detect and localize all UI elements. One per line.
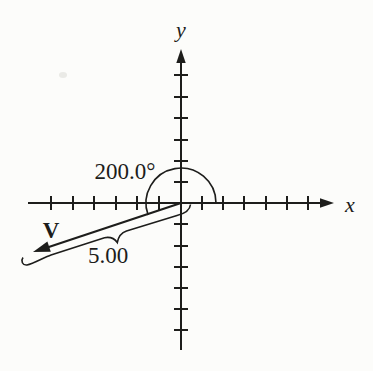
y-axis-label: y [174, 17, 186, 42]
vector-diagram-figure: y x 200.0° V 5.00 [0, 0, 373, 371]
diagram-canvas: y x 200.0° V 5.00 [0, 0, 373, 371]
x-axis-arrowhead-icon [320, 198, 334, 207]
x-axis-label: x [344, 192, 355, 217]
vector-name-label: V [43, 218, 60, 243]
scan-smudge [59, 72, 67, 78]
magnitude-value-label: 5.00 [88, 243, 128, 268]
y-axis-arrowhead-icon [176, 49, 185, 63]
vector-shaft [48, 203, 181, 247]
angle-value-label: 200.0° [95, 159, 156, 184]
